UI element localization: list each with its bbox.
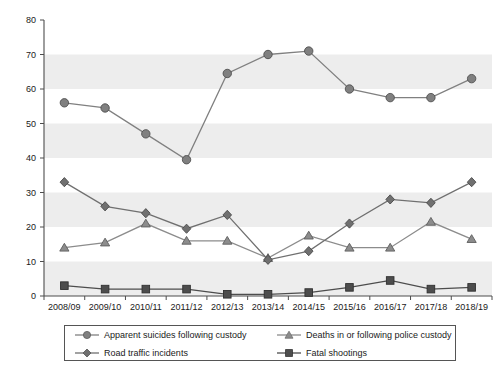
y-axis-tick-label: 50 xyxy=(26,119,36,129)
plot-svg: 01020304050607080 2008/092009/102010/112… xyxy=(0,0,500,320)
y-axis-ticks: 01020304050607080 xyxy=(26,15,44,301)
x-axis-tick-label: 2017/18 xyxy=(415,302,448,312)
data-point xyxy=(427,93,435,101)
legend-item-apparent-suicides[interactable]: Apparent suicides following custody xyxy=(65,326,276,344)
data-point xyxy=(183,285,191,293)
x-axis-tick-label: 2008/09 xyxy=(48,302,81,312)
data-point xyxy=(142,285,150,293)
x-axis-tick-label: 2015/16 xyxy=(333,302,366,312)
data-point xyxy=(305,47,313,55)
data-point xyxy=(60,178,69,187)
data-point xyxy=(346,284,354,292)
x-axis-tick-label: 2012/13 xyxy=(211,302,244,312)
x-axis-tick-label: 2011/12 xyxy=(171,302,203,312)
legend-label: Road traffic incidents xyxy=(104,348,188,359)
series-line xyxy=(64,222,471,258)
grid-band xyxy=(44,193,492,228)
legend-item-deaths-in-custody[interactable]: Deaths in or following police custody xyxy=(276,326,455,344)
data-point xyxy=(182,156,190,164)
data-point xyxy=(223,290,231,298)
triangle-marker-icon xyxy=(276,329,302,341)
data-point xyxy=(304,247,313,256)
data-point xyxy=(386,93,394,101)
data-point xyxy=(467,74,475,82)
legend-label: Fatal shootings xyxy=(306,348,367,359)
data-point xyxy=(305,289,313,297)
data-point xyxy=(264,50,272,58)
data-point xyxy=(101,285,109,293)
data-point xyxy=(304,231,313,239)
x-axis-tick-label: 2013/14 xyxy=(252,302,285,312)
x-axis-tick-label: 2009/10 xyxy=(89,302,122,312)
y-axis-tick-label: 0 xyxy=(31,291,36,301)
circle-marker-icon xyxy=(74,329,100,341)
y-axis-tick-label: 60 xyxy=(26,84,36,94)
legend-label: Deaths in or following police custody xyxy=(306,330,452,341)
plot-area: 01020304050607080 2008/092009/102010/112… xyxy=(0,0,500,320)
data-point xyxy=(60,99,68,107)
square-marker-icon xyxy=(276,347,302,359)
data-point xyxy=(467,178,476,187)
x-axis-tick-label: 2016/17 xyxy=(374,302,407,312)
x-axis-tick-label: 2014/15 xyxy=(292,302,325,312)
chart-legend: Apparent suicides following custody Deat… xyxy=(64,325,456,361)
y-axis-tick-label: 70 xyxy=(26,50,36,60)
data-point xyxy=(100,238,109,246)
data-point xyxy=(468,284,476,292)
line-chart: 01020304050607080 2008/092009/102010/112… xyxy=(0,0,500,366)
data-point xyxy=(61,282,69,290)
data-point xyxy=(427,285,435,293)
data-point xyxy=(467,235,476,243)
y-axis-tick-label: 30 xyxy=(26,188,36,198)
data-point xyxy=(345,85,353,93)
y-axis-tick-label: 10 xyxy=(26,257,36,267)
data-point xyxy=(142,130,150,138)
legend-row: Road traffic incidents Fatal shootings xyxy=(65,344,455,362)
legend-row: Apparent suicides following custody Deat… xyxy=(65,326,455,344)
y-axis-tick-label: 40 xyxy=(26,153,36,163)
legend-item-fatal-shootings[interactable]: Fatal shootings xyxy=(276,344,455,362)
legend-label: Apparent suicides following custody xyxy=(104,330,247,341)
diamond-marker-icon xyxy=(74,347,100,359)
y-axis-tick-label: 20 xyxy=(26,222,36,232)
legend-item-road-traffic-incidents[interactable]: Road traffic incidents xyxy=(65,344,276,362)
grid-band xyxy=(44,124,492,159)
data-point xyxy=(223,69,231,77)
y-axis-tick-label: 80 xyxy=(26,15,36,25)
grid-band xyxy=(44,55,492,90)
x-axis-tick-label: 2018/19 xyxy=(455,302,488,312)
x-axis-tick-label: 2010/11 xyxy=(130,302,162,312)
data-point xyxy=(264,290,272,298)
data-point xyxy=(386,277,394,285)
data-point xyxy=(101,104,109,112)
